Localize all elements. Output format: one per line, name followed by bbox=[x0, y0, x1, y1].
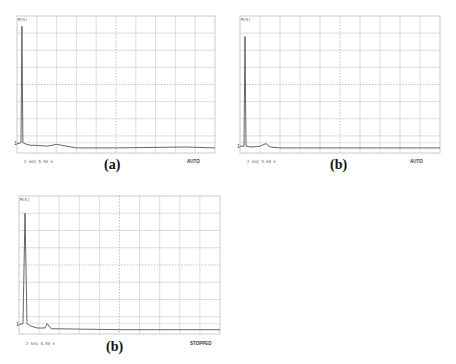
panel-caption: (b) bbox=[106, 339, 123, 355]
ground-marker-icon: 1 bbox=[16, 321, 19, 327]
panel-caption: (b) bbox=[330, 157, 347, 173]
footer-readout: 2 kHz 5.60 k bbox=[247, 159, 276, 164]
ground-marker-icon: 1 bbox=[237, 143, 240, 149]
trace-label: M(S) bbox=[241, 17, 251, 22]
grid bbox=[240, 16, 440, 153]
status-label: STOPPED bbox=[190, 341, 211, 346]
status-label: AUTO bbox=[410, 159, 423, 164]
trace-label: M(S) bbox=[20, 197, 30, 202]
grid bbox=[19, 196, 220, 334]
spectrum-plot-c: 1 bbox=[0, 0, 230, 364]
footer-readout: 2 kHz 8.50 k bbox=[26, 341, 55, 346]
panel-c: 1 M(S) 2 kHz 8.50 k STOPPED (b) bbox=[0, 0, 230, 364]
